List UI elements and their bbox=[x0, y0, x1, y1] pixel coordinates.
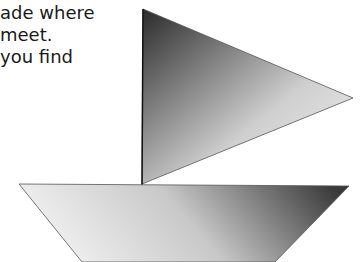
mast-line bbox=[142, 9, 143, 185]
sail-triangle bbox=[142, 9, 353, 184]
hull-trapezoid bbox=[19, 184, 349, 262]
sailboat-figure bbox=[0, 0, 361, 262]
